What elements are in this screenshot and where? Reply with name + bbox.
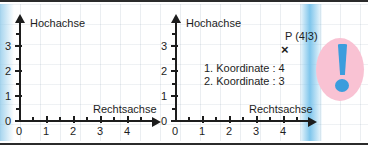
left-x-tick-1-5	[59, 117, 61, 122]
left-x-tick-0-5	[32, 117, 34, 122]
right-y-tick-0-5	[172, 108, 177, 110]
left-x-tick-4-5	[140, 117, 142, 122]
left-y-tick-3	[15, 45, 22, 47]
right-x-tick-1	[202, 116, 204, 123]
right-x-label-0: 0	[172, 126, 178, 137]
left-y-axis-name: Hochachse	[30, 17, 85, 29]
coordinate-line-2: 2. Koordinate : 3	[204, 75, 285, 87]
right-x-tick-3-5	[269, 117, 271, 122]
left-x-label-1: 1	[43, 126, 49, 137]
right-y-label-0: 0	[161, 116, 167, 127]
left-y-axis-arrow-icon	[15, 14, 25, 23]
exclamation-mark-icon	[316, 38, 364, 101]
left-y-axis	[19, 22, 21, 122]
point-p-marker: ×	[281, 43, 289, 56]
right-x-tick-1-5	[215, 117, 217, 122]
right-x-tick-0	[175, 115, 177, 122]
left-x-label-3: 3	[97, 126, 103, 137]
right-x-label-4: 4	[280, 126, 286, 137]
right-x-tick-4	[283, 116, 285, 123]
left-y-label-1: 1	[5, 91, 11, 102]
right-y-tick-1	[171, 95, 178, 97]
right-x-tick-4-5	[296, 117, 298, 122]
right-x-tick-3	[256, 116, 258, 123]
left-y-tick-1	[15, 95, 22, 97]
right-y-label-1: 1	[161, 91, 167, 102]
left-y-tick-1-5	[16, 83, 21, 85]
left-y-label-0: 0	[5, 116, 11, 127]
right-x-label-3: 3	[253, 126, 259, 137]
left-x-tick-1	[46, 116, 48, 123]
right-y-tick-2	[171, 70, 178, 72]
left-x-label-4: 4	[124, 126, 130, 137]
right-y-label-3: 3	[161, 41, 167, 52]
right-y-axis	[175, 22, 177, 122]
left-coordinate-system: 0 1 2 3 0 1 2 3 4 Hochachse Rechtsachse	[0, 4, 175, 145]
right-y-axis-arrow-icon	[171, 14, 181, 23]
right-x-label-2: 2	[226, 126, 232, 137]
figure-canvas: 0 1 2 3 0 1 2 3 4 Hochachse Rechtsachse	[0, 0, 368, 145]
left-y-tick-2-5	[16, 58, 21, 60]
right-x-axis-arrow-icon	[308, 117, 317, 127]
right-x-tick-2	[229, 116, 231, 123]
left-x-label-2: 2	[70, 126, 76, 137]
left-y-label-2: 2	[5, 66, 11, 77]
left-y-label-3: 3	[5, 41, 11, 52]
right-y-tick-1-5	[172, 83, 177, 85]
right-y-tick-3-5	[172, 33, 177, 35]
left-x-tick-2-5	[86, 117, 88, 122]
left-x-axis-name: Rechtsachse	[93, 103, 157, 115]
left-x-tick-2	[73, 116, 75, 123]
left-x-label-0: 0	[16, 126, 22, 137]
point-p-label: P (4|3)	[285, 30, 318, 42]
right-y-tick-3	[171, 45, 178, 47]
left-x-tick-0	[19, 115, 21, 122]
left-x-tick-3	[100, 116, 102, 123]
right-x-label-1: 1	[199, 126, 205, 137]
left-y-tick-0-5	[16, 108, 21, 110]
right-y-label-2: 2	[161, 66, 167, 77]
right-x-axis-name: Rechtsachse	[249, 103, 313, 115]
right-x-tick-2-5	[242, 117, 244, 122]
right-y-axis-name: Hochachse	[186, 17, 241, 29]
left-x-tick-3-5	[113, 117, 115, 122]
left-y-tick-3-5	[16, 33, 21, 35]
badge-exclamation-dot	[335, 79, 349, 92]
left-x-tick-4	[127, 116, 129, 123]
right-x-tick-0-5	[188, 117, 190, 122]
left-y-tick-2	[15, 70, 22, 72]
right-y-tick-2-5	[172, 58, 177, 60]
coordinate-line-1: 1. Koordinate : 4	[204, 62, 285, 74]
